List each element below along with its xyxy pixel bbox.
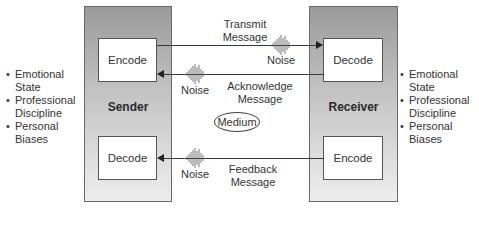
transmit-noise-label: Noise [264,54,298,66]
trait-item: ProfessionalDiscipline [400,94,470,120]
receiver-title: Receiver [309,100,398,114]
arrow-left-icon [157,70,164,78]
noise-waveform-icon [270,34,292,56]
trait-item: EmotionalState [6,68,76,94]
trait-item: ProfessionalDiscipline [6,94,76,120]
feedback-message-label: FeedbackMessage [218,163,288,189]
transmit-arrow-line [157,45,317,46]
noise-waveform-icon [184,147,206,169]
trait-item: EmotionalState [400,68,470,94]
noise-waveform-icon [184,63,206,85]
sender-title: Sender [84,100,172,114]
sender-encode-box: Encode [98,38,157,82]
acknowledge-message-label: AcknowledgeMessage [215,80,305,106]
receiver-encode-box: Encode [323,136,383,180]
receiver-traits-list: EmotionalState ProfessionalDiscipline Pe… [400,68,470,146]
arrow-left-icon [157,154,164,162]
acknowledge-noise-label: Noise [178,84,212,96]
feedback-noise-label: Noise [178,168,212,180]
sender-traits-list: EmotionalState ProfessionalDiscipline Pe… [6,68,76,146]
trait-item: PersonalBiases [6,120,76,146]
medium-label: Medium [214,112,260,132]
receiver-decode-box: Decode [323,38,383,82]
trait-item: PersonalBiases [400,120,470,146]
sender-decode-box: Decode [98,136,157,180]
arrow-right-icon [316,41,323,49]
